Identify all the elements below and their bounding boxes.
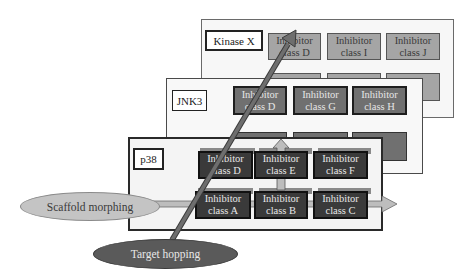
target-hopping-ellipse: Target hopping	[93, 239, 238, 269]
target-hopping-arrow-icon	[172, 30, 296, 240]
scaffold-morphing-ellipse: Scaffold morphing	[20, 192, 160, 221]
target-hopping-layer	[0, 0, 472, 279]
